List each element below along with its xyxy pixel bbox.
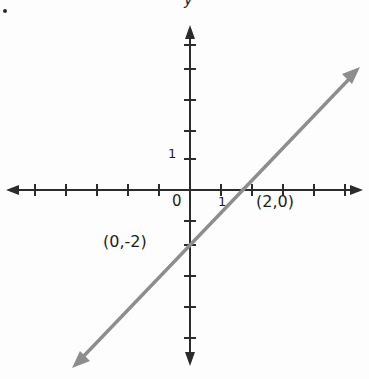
point-label-y-intercept: (0,-2) [103,234,147,250]
x-axis [6,184,363,196]
origin-label: 0 [172,194,182,209]
y-tick-label-1: 1 [168,147,176,160]
y-axis-label: y [184,0,193,8]
x-tick-label-1: 1 [218,195,226,208]
coordinate-plane [0,0,369,379]
y-axis [184,25,196,366]
graph-figure: y 0 1 1 (2,0) (0,-2) [0,0,369,379]
point-label-x-intercept: (2,0) [256,194,294,210]
plotted-line [72,67,360,368]
